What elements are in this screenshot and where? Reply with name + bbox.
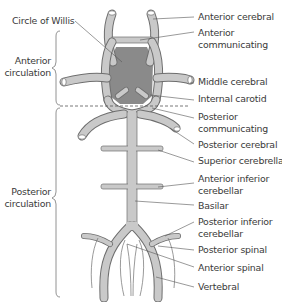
label-posterior-communicating-line1: Posterior — [198, 111, 268, 123]
label-anterior-circulation-line2: circulation — [2, 67, 51, 79]
anterior-brace — [52, 31, 60, 105]
label-posterior-circulation-line2: circulation — [2, 198, 51, 210]
label-anterior-communicating: Anterior communicating — [198, 27, 268, 50]
posterior-brace — [52, 108, 60, 297]
label-posterior-inferior-cerebellar: Posterior inferior cerebellar — [198, 216, 272, 239]
label-vertebral: Vertebral — [198, 281, 239, 293]
label-anterior-inferior-cerebellar-line2: cerebellar — [198, 185, 269, 197]
label-anterior-cerebral: Anterior cerebral — [198, 11, 274, 23]
label-superior-cerebellar: Superior cerebrellar — [198, 155, 282, 167]
label-anterior-communicating-line1: Anterior — [198, 27, 268, 39]
label-posterior-inferior-cerebellar-line2: cerebellar — [198, 228, 272, 240]
label-posterior-inferior-cerebellar-line1: Posterior inferior — [198, 216, 272, 228]
label-anterior-spinal: Anterior spinal — [198, 262, 264, 274]
label-anterior-circulation: Anterior circulation — [2, 55, 51, 78]
label-internal-carotid: Internal carotid — [198, 93, 266, 105]
label-anterior-inferior-cerebellar-line1: Anterior inferior — [198, 173, 269, 185]
posterior-inferior-cerebellar-arteries — [84, 236, 178, 244]
label-posterior-spinal: Posterior spinal — [198, 244, 267, 256]
label-posterior-communicating-line2: communicating — [198, 123, 268, 135]
label-posterior-communicating: Posterior communicating — [198, 111, 268, 134]
anterior-inferior-cerebellar-arteries — [101, 183, 163, 190]
anterior-communicating-artery — [112, 37, 152, 43]
label-posterior-cerebral: Posterior cerebral — [198, 139, 277, 151]
label-posterior-circulation: Posterior circulation — [2, 186, 51, 209]
label-anterior-circulation-line1: Anterior — [2, 55, 51, 67]
label-middle-cerebral: Middle cerebral — [198, 76, 267, 88]
basilar-artery — [127, 111, 137, 229]
label-anterior-inferior-cerebellar: Anterior inferior cerebellar — [198, 173, 269, 196]
label-basilar: Basilar — [198, 200, 228, 212]
superior-cerebellar-arteries — [101, 145, 163, 152]
label-posterior-circulation-line1: Posterior — [2, 186, 51, 198]
label-circle-of-willis: Circle of Willis — [12, 15, 75, 27]
label-anterior-communicating-line2: communicating — [198, 39, 268, 51]
